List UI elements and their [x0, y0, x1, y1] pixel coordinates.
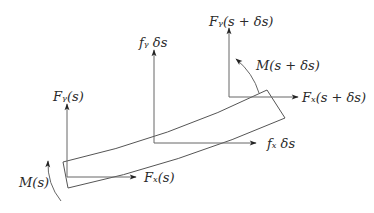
fy-left-label: Fᵧ(s)	[53, 90, 84, 103]
fx-distributed-label: fₓ δs	[267, 137, 295, 150]
m-right-label: M(s + δs)	[256, 59, 320, 72]
fx-left-label: Fₓ(s)	[144, 171, 174, 184]
m-left-label: M(s)	[19, 176, 49, 189]
beam-free-body-diagram: Fᵧ(s) Fₓ(s) M(s) fᵧ δs fₓ δs Fᵧ(s + δs) …	[0, 0, 374, 213]
fy-distributed-label: fᵧ δs	[139, 36, 167, 49]
fx-right-label: Fₓ(s + δs)	[302, 91, 366, 104]
beam-top-edge	[63, 90, 267, 162]
diagram-canvas	[0, 0, 374, 213]
fy-right-label: Fᵧ(s + δs)	[209, 15, 273, 28]
m-left-arrow	[48, 161, 61, 201]
beam-right-end	[267, 90, 285, 118]
